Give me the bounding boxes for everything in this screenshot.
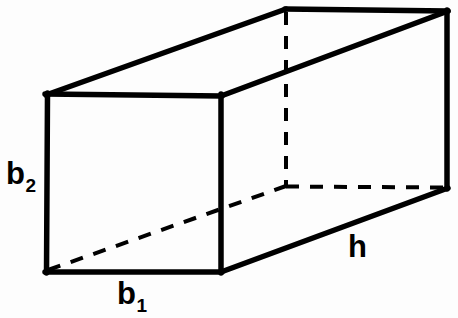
label-b2: b2 (6, 158, 35, 189)
edge-front-left-vertical (47, 93, 48, 273)
hidden-edge-bottom-left-diagonal (48, 186, 286, 270)
edge-top-left-diagonal (46, 9, 286, 95)
hidden-edges-group (48, 12, 447, 270)
label-h-base: h (348, 229, 366, 264)
prism-drawing (0, 0, 458, 318)
rectangular-prism-figure: b2 b1 h (0, 0, 458, 318)
label-b1-subscript: 1 (136, 295, 146, 316)
edge-bottom-right-diagonal (221, 188, 448, 272)
hidden-edge-bottom-back-horizontal (286, 187, 447, 188)
label-b1: b1 (117, 278, 146, 309)
label-h: h (348, 231, 366, 262)
label-b2-subscript: 2 (25, 175, 35, 196)
edge-front-top (45, 94, 222, 96)
edge-top-back-horizontal (285, 9, 448, 11)
label-b1-base: b (117, 276, 135, 311)
visible-edges-group (45, 9, 448, 273)
edge-top-right-diagonal (221, 11, 448, 96)
label-b2-base: b (6, 156, 24, 191)
